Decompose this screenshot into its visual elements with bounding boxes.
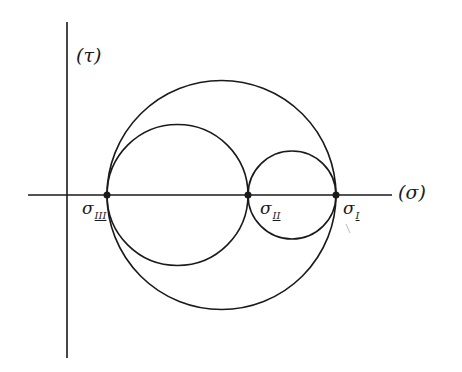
stray-mark xyxy=(346,224,350,233)
subscript-III: III xyxy=(95,210,107,221)
subscript-II: II xyxy=(273,210,281,221)
label-sigma-II: σII xyxy=(260,198,281,218)
point-sigma-I xyxy=(333,192,340,199)
subscript-I: I xyxy=(356,210,360,221)
mohr-circle-diagram xyxy=(0,0,462,372)
sigma-symbol: σ xyxy=(343,198,355,218)
sigma-symbol: σ xyxy=(260,198,272,218)
point-sigma-II xyxy=(245,192,252,199)
label-sigma-III: σIII xyxy=(82,198,106,218)
label-sigma-I: σI xyxy=(343,198,360,218)
sigma-axis-label: (σ) xyxy=(398,181,426,203)
sigma-symbol: σ xyxy=(82,198,94,218)
tau-axis-label: (τ) xyxy=(76,44,101,66)
